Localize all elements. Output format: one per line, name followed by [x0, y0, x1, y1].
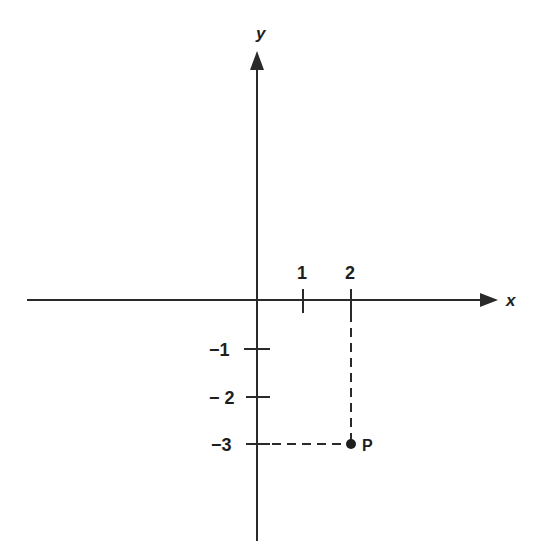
- y-axis: y: [250, 24, 267, 541]
- x-axis-label: x: [505, 291, 517, 310]
- x-axis: x: [27, 291, 517, 310]
- x-tick-label-1: 1: [297, 263, 307, 283]
- y-tick-neg-1: −1: [209, 340, 270, 360]
- coordinate-plane: x y 1 2 −1 − 2 −3 P: [0, 0, 541, 548]
- x-tick-label-2: 2: [345, 263, 355, 283]
- y-axis-arrowhead-icon: [250, 51, 264, 70]
- point-label: P: [362, 437, 373, 454]
- x-tick-2: 2: [345, 263, 355, 313]
- y-tick-label-neg-2: − 2: [209, 388, 235, 408]
- y-tick-neg-3: −3: [211, 435, 270, 455]
- x-axis-arrowhead-icon: [480, 293, 498, 307]
- y-tick-label-neg-3: −3: [211, 435, 232, 455]
- point-p: P: [346, 437, 373, 454]
- y-tick-neg-2: − 2: [209, 388, 270, 408]
- y-tick-label-neg-1: −1: [209, 340, 230, 360]
- y-axis-label: y: [255, 24, 267, 43]
- point-marker-icon: [346, 439, 356, 449]
- x-tick-1: 1: [297, 263, 307, 313]
